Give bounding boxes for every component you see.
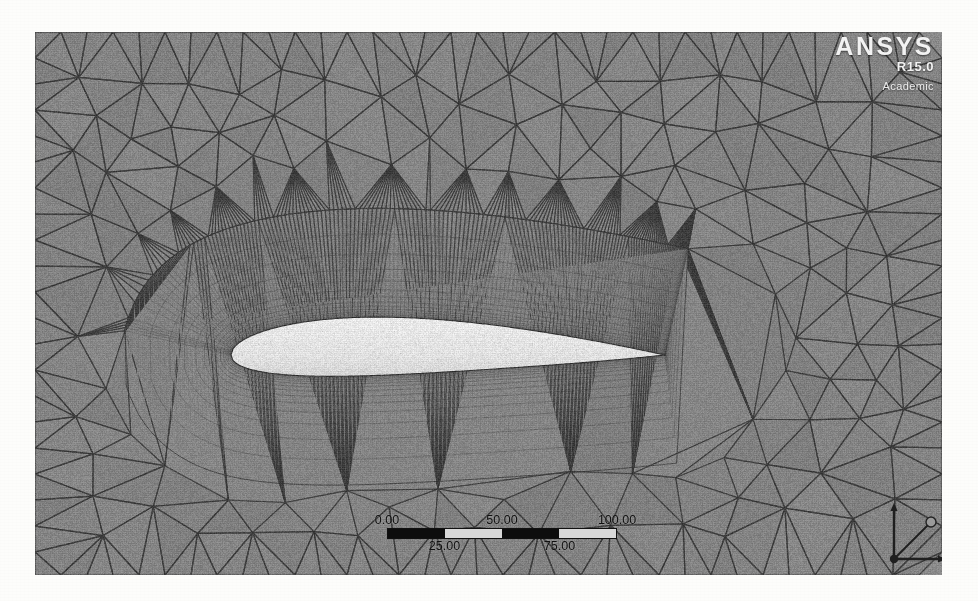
ansys-logo: ANSYS R15.0 Academic: [835, 34, 934, 93]
scale-bar: 0.00 50.00 100.00 25.00 75.00: [387, 513, 617, 554]
scale-bar-segment: [502, 529, 559, 538]
scan-bleedthrough-text: ㅤ ㅤ ㅤ ㅤ ㅤ ㅤ ㅤ ㅤ: [60, 578, 930, 598]
scale-bar-bottom-labels: 25.00 75.00: [387, 539, 617, 554]
scale-bar-top-labels: 0.00 50.00 100.00: [387, 513, 617, 528]
scale-bar-segment: [559, 529, 616, 538]
ansys-release-text: R15.0: [835, 60, 934, 74]
graphics-viewport[interactable]: ANSYS R15.0 Academic 0.00 50.00 100.00 2…: [35, 32, 942, 575]
scale-bar-segment: [388, 529, 445, 538]
ansys-license-text: Academic: [835, 80, 934, 93]
airfoil-mesh-render: [35, 32, 942, 575]
scale-label-25: 25.00: [429, 539, 460, 554]
ansys-brand-text: ANSYS: [835, 34, 934, 59]
scale-label-75: 75.00: [544, 539, 575, 554]
scale-label-0: 0.00: [375, 513, 399, 528]
coordinate-triad-icon[interactable]: [880, 497, 942, 575]
scale-label-100: 100.00: [598, 513, 636, 528]
scale-bar-segment: [445, 529, 502, 538]
scale-label-50: 50.00: [486, 513, 517, 528]
scale-bar-ruler: [387, 528, 617, 539]
